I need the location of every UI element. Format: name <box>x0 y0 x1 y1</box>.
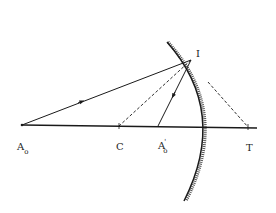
label-a0: Ao <box>17 142 28 152</box>
label-a0-prime: A'o <box>158 141 167 151</box>
mirror-hatching <box>168 42 205 201</box>
incident-ray <box>22 60 191 125</box>
label-a0p-sup: ' <box>164 138 166 146</box>
label-a0-sub: o <box>24 148 28 156</box>
diagram-graphic <box>0 0 276 213</box>
label-c: C <box>116 142 124 152</box>
tangent-line <box>208 82 248 127</box>
label-t: T <box>246 143 253 153</box>
principal-axis <box>22 125 257 128</box>
label-i: I <box>196 49 200 59</box>
point-a0-dot <box>21 124 24 127</box>
concave-mirror <box>167 42 203 201</box>
reflected-ray-arrow-icon <box>173 92 175 96</box>
mirror-diagram: Ao C A'o T I <box>0 0 276 213</box>
normal-line <box>119 60 191 126</box>
incident-ray-arrow-icon <box>78 102 82 104</box>
label-a0p-sub: o <box>163 147 167 155</box>
